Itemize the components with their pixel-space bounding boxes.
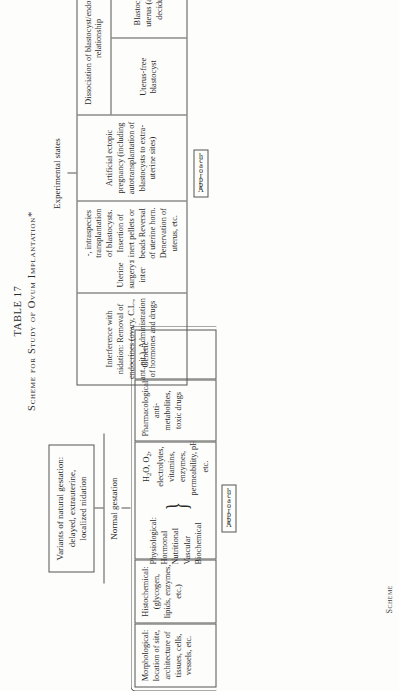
cell-blastocyst-free-uterus: Blastocyst-free uterus (artificial decid… xyxy=(111,0,185,38)
physiological-item: Nutritional xyxy=(169,516,180,563)
variants-of-natural-gestation-box: Variants of natural gestation: delayed, … xyxy=(48,444,94,572)
physiological-item: Hormonal xyxy=(158,516,169,563)
cell-histochemical: Histochemical: (glycogen, lipids, enzyme… xyxy=(134,559,215,623)
scheme-diagram: Variants of natural gestation: delayed, … xyxy=(48,6,235,615)
dissociation-subcells: Uterus-free blastocyst Blastocyst-free u… xyxy=(111,0,185,114)
column-uterine-surgery: Uterine surgery: inter-, intraspecies tr… xyxy=(77,200,186,292)
table-caption: Scheme for Study of Ovum Implantation* xyxy=(24,6,38,615)
dissociation-header: Dissociation of blastocyst/endometrium r… xyxy=(77,0,112,114)
cell-uterus-free-blastocyst: Uterus-free blastocyst xyxy=(111,38,185,115)
normal-gestation-label: Normal gestation xyxy=(104,477,121,539)
brace-icon: } xyxy=(163,502,187,510)
physiological-item: Vascular xyxy=(181,516,192,563)
cell-uterine-surgery: Uterine surgery: inter-, intraspecies tr… xyxy=(77,201,186,292)
column-artificial-ectopic-pregnancy: Artificial ectopic pregnancy (including … xyxy=(77,114,186,200)
cell-artificial-ectopic-pregnancy: Artificial ectopic pregnancy (including … xyxy=(77,115,186,200)
cell-interference-with-nidation: Interference with nidation: Removal of e… xyxy=(77,293,186,384)
cell-morphological: Morphological: location of site, archite… xyxy=(134,623,215,687)
physiological-heading: Physiological: xyxy=(147,516,158,563)
cell-physiological: Physiological: Hormonal Nutritional Vasc… xyxy=(134,441,215,559)
experimental-states-table: Interference with nidation: Removal of e… xyxy=(76,0,187,385)
approach-label-experimental: A p p r o a c h xyxy=(193,149,208,197)
page-title: TABLE 17 Scheme for Study of Ovum Implan… xyxy=(10,6,38,615)
experimental-states-branch: Experimental states Interference with ni… xyxy=(48,10,207,336)
approach-label-normal: A p p r o a c h xyxy=(221,484,236,532)
connector xyxy=(67,173,76,174)
approach-letter: h xyxy=(226,486,230,495)
physiological-detail: H2O, O2, electrolytes, vitamins, enzymes… xyxy=(140,436,209,496)
experimental-states-label: Experimental states xyxy=(48,138,66,209)
connector xyxy=(94,508,103,509)
blob-mark xyxy=(129,260,134,261)
physiological-item: Biochemical xyxy=(192,516,203,563)
connector xyxy=(121,508,130,509)
normal-gestation-branch: Variants of natural gestation: delayed, … xyxy=(48,405,235,611)
column-interference-with-nidation: Interference with nidation: Removal of e… xyxy=(77,292,186,384)
table-number: TABLE 17 xyxy=(10,6,24,615)
scheme-footer-label: Scheme xyxy=(384,585,393,613)
approach-letter: h xyxy=(198,151,202,160)
cell-pharmacological: Pharmacological: anti-metabolites, toxic… xyxy=(134,379,215,441)
column-dissociation: Dissociation of blastocyst/endometrium r… xyxy=(77,0,186,114)
